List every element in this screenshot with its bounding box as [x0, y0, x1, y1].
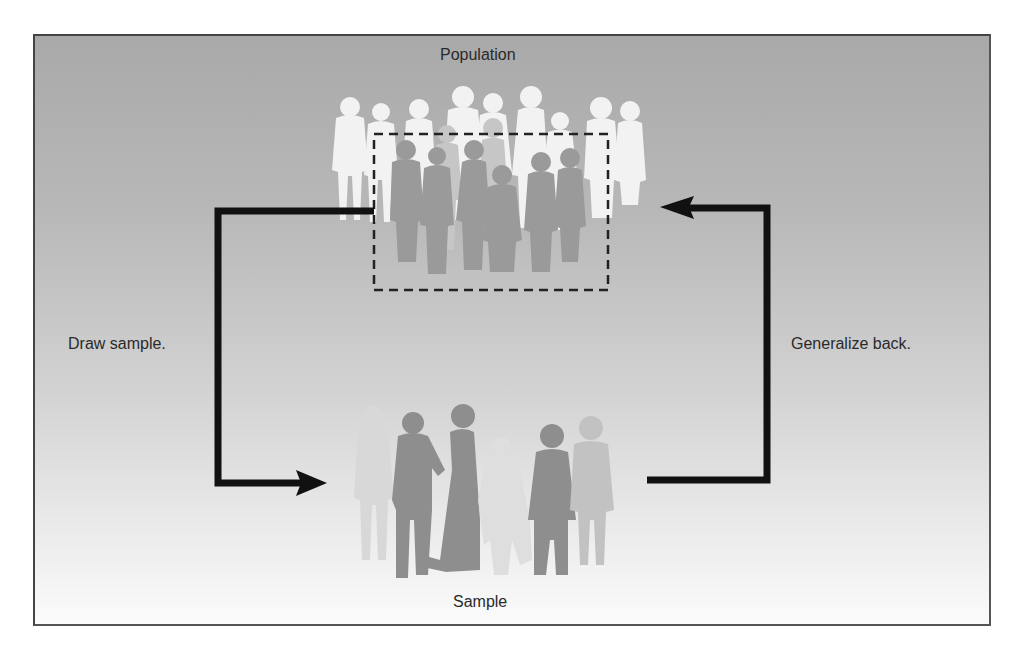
sample-label: Sample	[453, 593, 507, 611]
population-group	[332, 86, 646, 290]
population-label: Population	[440, 46, 516, 64]
sample-group	[354, 404, 614, 578]
draw-sample-label: Draw sample.	[68, 335, 166, 353]
generalize-back-label: Generalize back.	[791, 335, 911, 353]
draw-sample-arrow	[218, 211, 374, 483]
diagram-artwork	[0, 0, 1019, 663]
generalize-back-arrowhead	[660, 196, 694, 219]
generalize-back-arrow	[647, 208, 767, 480]
